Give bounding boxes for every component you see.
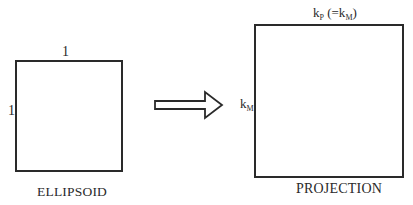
ellipsoid-side-label: 1	[8, 104, 15, 118]
projection-top-label: kP (=kM)	[313, 6, 357, 22]
km-side-subscript: M	[247, 104, 254, 113]
ellipsoid-caption: ELLIPSOID	[37, 185, 107, 199]
projection-caption: PROJECTION	[296, 182, 382, 196]
equals-km-label: (=k	[324, 5, 345, 20]
km-subscript: M	[345, 13, 352, 22]
projection-square	[254, 24, 404, 178]
right-arrow-icon	[150, 88, 230, 122]
ellipsoid-square	[15, 60, 123, 172]
paren-close: )	[353, 5, 357, 20]
ellipsoid-top-label: 1	[62, 45, 69, 59]
projection-side-label: kM	[240, 97, 254, 113]
